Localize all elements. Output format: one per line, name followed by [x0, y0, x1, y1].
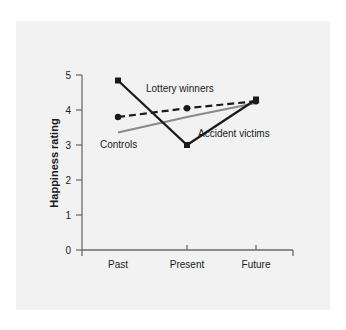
y-tick-label-3: 3 — [65, 140, 71, 151]
series-marker-lottery-winners-past — [115, 114, 121, 120]
series-annotation-lottery-winners: Lottery winners — [146, 83, 214, 94]
series-annotation-controls: Controls — [100, 139, 137, 150]
series-marker-accident-victims-present — [184, 142, 190, 148]
y-tick-label-2: 2 — [65, 175, 71, 186]
y-tick-label-4: 4 — [65, 105, 71, 116]
x-tick-label-past: Past — [108, 259, 128, 270]
chart-figure: 5 4 3 2 1 0 Past Present Future Happines… — [0, 0, 346, 330]
series-marker-lottery-winners-present — [184, 105, 190, 111]
line-chart: 5 4 3 2 1 0 Past Present Future Happines… — [0, 0, 346, 330]
x-tick-label-future: Future — [242, 259, 271, 270]
series-marker-lottery-winners-future — [253, 98, 259, 104]
series-annotation-accident-victims: Accident victims — [198, 128, 270, 139]
series-marker-accident-victims-past — [115, 78, 121, 84]
y-tick-label-0: 0 — [65, 245, 71, 256]
y-tick-label-5: 5 — [65, 70, 71, 81]
y-tick-label-1: 1 — [65, 210, 71, 221]
y-axis-title: Happiness rating — [48, 118, 60, 207]
x-tick-label-present: Present — [170, 259, 205, 270]
